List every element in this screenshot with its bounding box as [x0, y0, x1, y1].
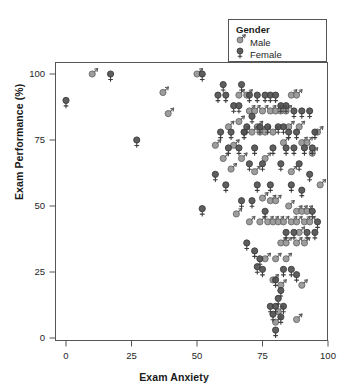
point-male: [160, 87, 169, 96]
point-female: [252, 248, 258, 258]
point-male: [236, 116, 245, 125]
point-female: [244, 240, 250, 250]
point-female: [283, 145, 289, 155]
point-male: [262, 253, 271, 262]
data-points: [63, 69, 326, 338]
point-female: [280, 266, 286, 276]
x-tick-label: 25: [112, 350, 152, 361]
point-male: [301, 238, 310, 247]
plot-canvas: [0, 0, 348, 392]
point-female: [265, 124, 271, 134]
point-male: [249, 127, 258, 136]
point-female: [212, 171, 218, 181]
point-female: [304, 229, 310, 239]
point-male: [225, 121, 234, 130]
point-male: [89, 69, 98, 78]
point-male: [259, 106, 268, 115]
point-female: [223, 182, 229, 192]
point-female: [238, 198, 244, 208]
point-female: [215, 92, 221, 102]
point-male: [293, 314, 302, 323]
point-male: [278, 280, 287, 289]
point-female: [199, 71, 205, 81]
point-female: [63, 97, 69, 107]
point-female: [237, 48, 243, 58]
point-male: [273, 253, 282, 262]
point-female: [291, 108, 297, 118]
point-female: [286, 129, 292, 139]
point-female: [236, 145, 242, 155]
scatter-plot: Exam Performance (%) Exam Anxiety Gender…: [0, 0, 348, 392]
point-female: [273, 277, 279, 287]
point-male: [236, 90, 245, 99]
point-female: [275, 295, 281, 305]
point-female: [309, 145, 315, 155]
y-tick-label: 75: [11, 134, 45, 145]
point-female: [314, 219, 320, 229]
point-male: [283, 253, 292, 262]
point-female: [267, 182, 273, 192]
point-female: [270, 311, 276, 321]
point-female: [299, 187, 305, 197]
point-female: [252, 145, 258, 155]
y-tick-label: 50: [11, 200, 45, 211]
point-female: [220, 81, 226, 91]
point-female: [312, 229, 318, 239]
point-female: [257, 124, 263, 134]
point-female: [241, 129, 247, 139]
x-tick-label: 100: [308, 350, 348, 361]
point-male: [228, 164, 237, 173]
x-tick-label: 50: [177, 350, 217, 361]
point-female: [307, 171, 313, 181]
point-male: [299, 280, 308, 289]
point-male: [259, 193, 268, 202]
point-female: [301, 145, 307, 155]
point-female: [259, 266, 265, 276]
point-male: [233, 209, 242, 218]
point-male: [286, 121, 295, 130]
legend-label-female: Female: [250, 49, 282, 60]
point-female: [238, 81, 244, 91]
point-female: [225, 145, 231, 155]
point-male: [286, 201, 295, 210]
point-female: [293, 272, 299, 282]
point-female: [280, 303, 286, 313]
point-male: [317, 179, 326, 188]
x-tick-label: 75: [243, 350, 283, 361]
point-female: [246, 161, 252, 171]
point-female: [228, 129, 234, 139]
point-female: [307, 108, 313, 118]
point-female: [273, 327, 279, 337]
point-female: [246, 92, 252, 102]
point-male: [288, 166, 297, 175]
point-female: [249, 113, 255, 123]
point-male: [220, 153, 229, 162]
point-female: [249, 198, 255, 208]
point-female: [254, 92, 260, 102]
point-female: [299, 108, 305, 118]
point-female: [254, 182, 260, 192]
point-female: [293, 129, 299, 139]
y-tick-label: 100: [11, 68, 45, 79]
point-male: [296, 227, 305, 236]
point-female: [278, 314, 284, 324]
y-tick-label: 0: [11, 332, 45, 343]
point-female: [107, 71, 113, 81]
point-female: [296, 161, 302, 171]
point-female: [236, 103, 242, 113]
point-male: [280, 137, 289, 146]
point-female: [291, 229, 297, 239]
point-female: [199, 206, 205, 216]
point-male: [238, 153, 247, 162]
point-male: [246, 216, 255, 225]
point-female: [288, 182, 294, 192]
y-tick-label: 25: [11, 266, 45, 277]
x-axis-ticks: [66, 341, 328, 347]
point-male: [212, 140, 221, 149]
point-female: [273, 92, 279, 102]
point-female: [217, 129, 223, 139]
point-female: [309, 208, 315, 218]
point-female: [223, 92, 229, 102]
point-female: [134, 137, 140, 147]
legend-label-male: Male: [250, 37, 271, 48]
